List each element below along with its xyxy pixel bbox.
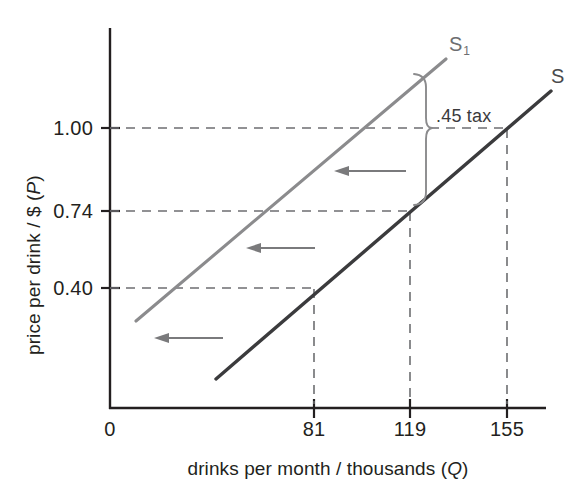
x-tick-label-0: 0 [93, 419, 127, 439]
y-axis-title-end: ) [23, 175, 44, 181]
y-axis-title-variable: P [23, 182, 44, 195]
supply-curve-s [216, 91, 551, 379]
curve-label-s1-subscript: 1 [463, 44, 470, 58]
y-tick-label-1.00: 1.00 [29, 118, 93, 138]
tax-brace [414, 74, 432, 205]
curve-label-s1-text: S [449, 33, 462, 55]
tax-annotation-label: .45 tax [436, 107, 491, 125]
x-tick-label-119: 119 [385, 419, 435, 439]
shift-arrow-middle [246, 243, 315, 253]
x-tick-label-155: 155 [482, 419, 532, 439]
curve-label-s: S [551, 66, 564, 86]
horizontal-guide-lines [110, 128, 510, 288]
y-axis-title: price per drink / $ (P) [24, 175, 43, 355]
x-axis-title: drinks per month / thousands (Q) [110, 459, 546, 478]
x-axis-title-end: ) [462, 458, 468, 479]
x-axis-title-main: drinks per month / thousands ( [188, 458, 448, 479]
supply-curve-chart: 1.00 0.74 0.40 0 81 119 155 price per dr… [0, 0, 577, 492]
x-axis-title-variable: Q [447, 458, 462, 479]
axes-group [109, 28, 546, 409]
y-axis-title-main: price per drink / $ ( [23, 195, 44, 356]
supply-curve-s1 [136, 59, 446, 321]
curve-label-s1: S1 [449, 34, 469, 54]
x-tick-label-81: 81 [292, 419, 336, 439]
shift-arrow-upper [334, 166, 406, 176]
shift-arrows [154, 166, 406, 343]
shift-arrow-lower [154, 333, 223, 343]
